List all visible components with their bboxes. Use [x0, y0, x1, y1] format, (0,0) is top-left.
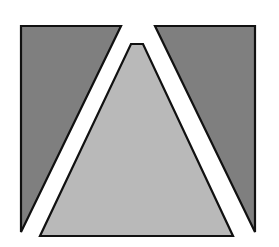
logo-figure — [0, 0, 279, 247]
